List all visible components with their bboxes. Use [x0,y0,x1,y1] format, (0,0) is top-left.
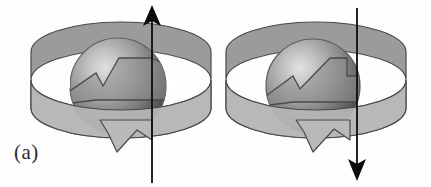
figure-illustration [0,0,431,187]
panel-label: (a) [14,140,39,165]
figure-container: (a) [0,0,431,187]
